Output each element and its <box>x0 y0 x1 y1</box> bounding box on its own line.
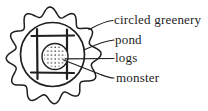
log-left <box>37 29 38 79</box>
leader-greenery <box>89 21 113 30</box>
label-logs: logs <box>115 51 137 65</box>
leader-monster <box>64 60 115 78</box>
label-monster: monster <box>116 71 159 85</box>
diagram-canvas: circled greenery pond logs monster <box>0 0 208 111</box>
label-circled-greenery: circled greenery <box>114 13 201 27</box>
label-pond: pond <box>115 33 142 47</box>
monster-body <box>42 44 68 70</box>
